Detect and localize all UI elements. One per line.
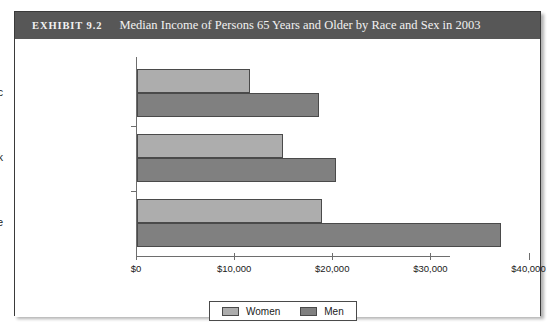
x-axis-tick	[136, 253, 137, 260]
legend-entry-men[interactable]: Men	[300, 306, 343, 317]
exhibit-number-label: EXHIBIT 9.2	[32, 20, 102, 31]
bar-hispanic-men	[137, 93, 319, 117]
legend-swatch-women	[222, 307, 239, 316]
x-axis-tick-label: $10,000	[217, 263, 251, 274]
y-axis-tick	[131, 126, 137, 127]
legend-label-men: Men	[324, 306, 343, 317]
x-axis-tick-label: $30,000	[413, 263, 447, 274]
exhibit-header: EXHIBIT 9.2 Median Income of Persons 65 …	[15, 12, 540, 39]
bar-black-women	[137, 134, 283, 158]
x-axis-tick	[529, 253, 530, 260]
chart-body: $0$10,000$20,000$30,000$40,000HispanicBl…	[15, 39, 540, 317]
plot-area: $0$10,000$20,000$30,000$40,000HispanicBl…	[136, 61, 450, 256]
bar-white-women	[137, 199, 322, 223]
exhibit-frame: EXHIBIT 9.2 Median Income of Persons 65 …	[14, 11, 541, 316]
category-label-black: Black	[0, 152, 3, 163]
legend-label-women: Women	[246, 306, 280, 317]
x-axis-tick-label: $40,000	[511, 263, 545, 274]
category-label-hispanic: Hispanic	[0, 87, 3, 98]
x-axis-tick	[430, 253, 431, 260]
legend-swatch-men	[300, 307, 317, 316]
category-label-white: White	[0, 217, 3, 228]
legend-entry-women[interactable]: Women	[222, 306, 280, 317]
bar-white-men	[137, 223, 501, 247]
bar-black-men	[137, 158, 336, 182]
x-axis-tick-label: $0	[131, 263, 142, 274]
y-axis-tick	[131, 191, 137, 192]
x-axis-tick-label: $20,000	[315, 263, 349, 274]
bar-hispanic-women	[137, 69, 250, 93]
x-axis-tick	[234, 253, 235, 260]
chart-legend: WomenMen	[209, 301, 357, 321]
value-axis-line	[136, 256, 450, 257]
exhibit-title: Median Income of Persons 65 Years and Ol…	[119, 18, 480, 33]
x-axis-tick	[332, 253, 333, 260]
